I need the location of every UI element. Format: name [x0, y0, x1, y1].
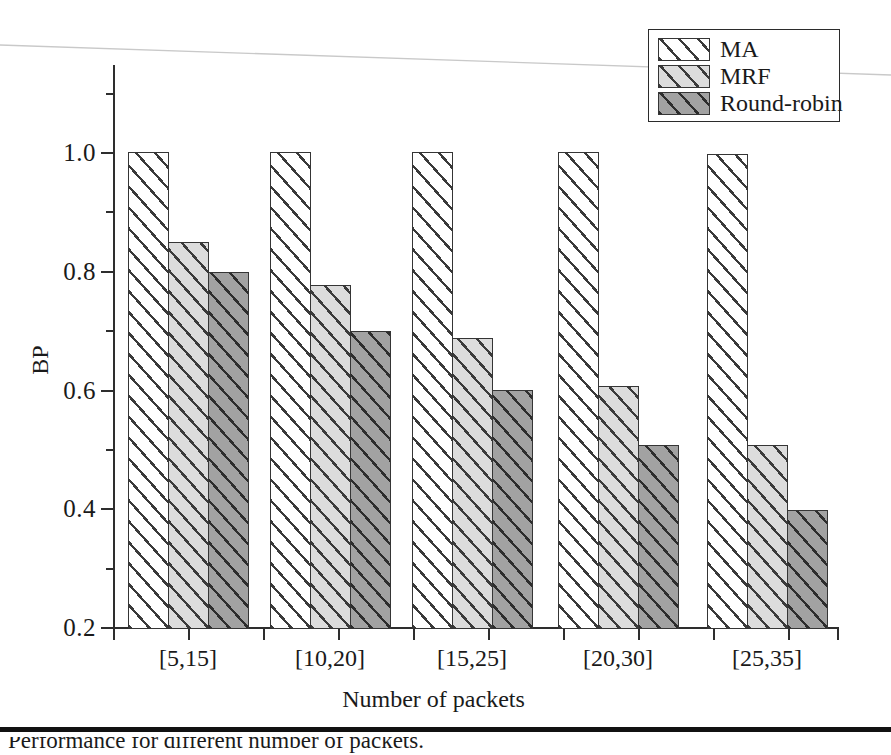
y-axis-title: BP [10, 330, 70, 390]
x-tick [263, 629, 265, 640]
y-axis-line [113, 65, 115, 629]
bar-round-robin-4 [638, 445, 679, 629]
bar-mrf-2 [310, 285, 351, 629]
y-tick-label: 0.4 [28, 496, 96, 521]
y-tick-minor [106, 93, 115, 95]
bar-ma-3 [412, 152, 453, 629]
bar-mrf-3 [452, 338, 493, 629]
x-axis-title-text: Number of packets [342, 686, 525, 713]
bar-round-robin-5 [787, 510, 828, 629]
x-tick [788, 629, 790, 640]
legend-entry-mrf: MRF [658, 65, 834, 88]
x-tick [713, 629, 715, 640]
y-tick-major [101, 271, 115, 273]
page-divider-rule [0, 727, 891, 732]
legend-entry-ma: MA [658, 38, 834, 61]
bar-mrf-4 [598, 386, 639, 629]
x-tick-label-2: [15,25] [392, 644, 552, 672]
legend-swatch-mrf [658, 65, 710, 88]
y-tick-major [101, 390, 115, 392]
legend-swatch-ma [658, 38, 710, 61]
x-tick [563, 629, 565, 640]
x-tick-label-0: [5,15] [108, 644, 268, 672]
x-tick [113, 629, 115, 640]
bar-mrf-1 [168, 242, 209, 629]
bar-ma-1 [128, 152, 169, 629]
bar-round-robin-3 [492, 390, 533, 629]
y-tick-label-text: 0.4 [36, 496, 96, 521]
legend: MA MRF Round-robin [648, 29, 840, 122]
legend-label-round-robin: Round-robin [720, 89, 843, 117]
y-tick-label: 0.2 [28, 615, 96, 640]
y-tick-label: 0.8 [28, 259, 96, 284]
bar-mrf-5 [747, 445, 788, 629]
legend-swatch-round-robin [658, 92, 710, 115]
y-tick-label: 1.0 [28, 140, 96, 165]
x-tick [338, 629, 340, 640]
x-tick [188, 629, 190, 640]
x-tick-label-3: [20,30] [538, 644, 698, 672]
x-tick [837, 629, 839, 640]
y-tick-minor [106, 449, 115, 451]
figure-caption: Performance for different number of pack… [8, 737, 424, 754]
y-tick-major [101, 508, 115, 510]
figure-caption-clip: Performance for different number of pack… [0, 737, 891, 755]
legend-label-mrf: MRF [720, 62, 771, 90]
x-tick [413, 629, 415, 640]
bar-round-robin-2 [350, 331, 391, 629]
x-tick [488, 629, 490, 640]
bar-ma-5 [707, 154, 748, 629]
x-tick-label-1: [10,20] [250, 644, 410, 672]
y-tick-label-text: 0.2 [36, 615, 96, 640]
y-tick-label-text: 1.0 [36, 140, 96, 165]
bar-ma-2 [270, 152, 311, 629]
y-tick-label-text: 0.8 [36, 259, 96, 284]
bar-chart-figure: 0.2 0.4 0.6 0.8 1.0 [5,15] [10,20] [15,2… [0, 0, 891, 755]
bar-round-robin-1 [208, 272, 249, 629]
x-tick [638, 629, 640, 640]
y-tick-major [101, 152, 115, 154]
y-tick-minor [106, 568, 115, 570]
x-tick-label-4: [25,35] [687, 644, 847, 672]
y-tick-minor [106, 330, 115, 332]
legend-entry-round-robin: Round-robin [658, 92, 834, 115]
bar-ma-4 [558, 152, 599, 629]
y-tick-minor [106, 211, 115, 213]
legend-label-ma: MA [720, 35, 759, 63]
x-axis-title: Number of packets [0, 686, 891, 713]
